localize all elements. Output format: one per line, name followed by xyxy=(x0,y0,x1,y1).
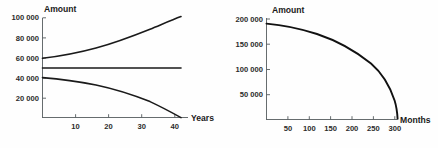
right-xtick-1: 100 xyxy=(303,124,316,133)
right-y-tick-labels: 50 000 100 000 150 000 200 000 xyxy=(236,15,263,100)
right-y-axis-title: Amount xyxy=(272,5,305,15)
left-curve-decaying xyxy=(43,78,182,118)
left-ytick-3: 80 000 xyxy=(16,34,39,43)
right-x-ticks xyxy=(288,116,395,119)
right-xtick-2: 150 xyxy=(324,124,337,133)
chart-left-svg: 20 000 40 000 60 000 80 000 100 000 10 2… xyxy=(0,0,219,148)
chart-right-amount-months: 50 000 100 000 150 000 200 000 50 100 15… xyxy=(219,0,438,148)
left-xtick-0: 10 xyxy=(71,122,79,131)
left-x-ticks xyxy=(76,114,175,117)
left-ytick-2: 60 000 xyxy=(16,54,39,63)
right-xtick-3: 200 xyxy=(346,124,359,133)
right-curve-balance xyxy=(267,24,398,119)
left-xtick-1: 20 xyxy=(104,122,112,131)
left-y-axis-title: Amount xyxy=(44,4,77,14)
left-xtick-2: 30 xyxy=(137,122,145,131)
right-ytick-0: 50 000 xyxy=(240,90,263,99)
right-ytick-3: 200 000 xyxy=(236,15,263,24)
right-x-axis-title: Months xyxy=(400,115,431,125)
left-x-tick-labels: 10 20 30 40 xyxy=(71,122,179,131)
left-xtick-3: 40 xyxy=(171,122,179,131)
left-curve-growing xyxy=(43,17,182,59)
left-ytick-4: 100 000 xyxy=(12,13,39,22)
right-ytick-2: 150 000 xyxy=(236,40,263,49)
right-ytick-1: 100 000 xyxy=(236,65,263,74)
figure-container: 20 000 40 000 60 000 80 000 100 000 10 2… xyxy=(0,0,438,148)
chart-right-svg: 50 000 100 000 150 000 200 000 50 100 15… xyxy=(219,0,438,148)
right-xtick-0: 50 xyxy=(284,124,292,133)
left-y-tick-labels: 20 000 40 000 60 000 80 000 100 000 xyxy=(12,13,39,102)
right-xtick-5: 300 xyxy=(388,124,401,133)
right-xtick-4: 250 xyxy=(367,124,380,133)
left-ytick-0: 20 000 xyxy=(16,94,39,103)
right-y-ticks xyxy=(267,19,271,95)
left-x-axis-title: Years xyxy=(191,113,214,123)
right-x-tick-labels: 50 100 150 200 250 300 xyxy=(284,124,401,133)
left-ytick-1: 40 000 xyxy=(16,74,39,83)
chart-left-amount-years: 20 000 40 000 60 000 80 000 100 000 10 2… xyxy=(0,0,219,148)
